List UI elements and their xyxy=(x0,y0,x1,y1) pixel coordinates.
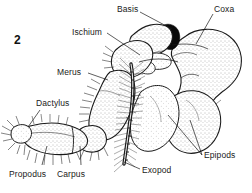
figure-number: 2 xyxy=(14,34,21,46)
appendage-illustration xyxy=(0,0,252,193)
label-carpus: Carpus xyxy=(57,170,85,179)
label-dactylus: Dactylus xyxy=(36,99,69,108)
label-epipods: Epipods xyxy=(204,151,235,160)
label-exopod: Exopod xyxy=(142,166,171,175)
label-basis: Basis xyxy=(117,5,138,14)
propodus-segment xyxy=(22,114,87,165)
leader-merus xyxy=(88,73,108,80)
label-ischium: Ischium xyxy=(72,28,102,37)
label-coxa: Coxa xyxy=(214,5,234,14)
figure-container: 2 Basis Coxa Ischium Merus Dactylus Prop… xyxy=(0,0,252,193)
label-merus: Merus xyxy=(57,68,81,77)
dactylus-segment xyxy=(1,116,32,155)
leader-exopod xyxy=(124,162,140,169)
label-propodus: Propodus xyxy=(9,170,46,179)
